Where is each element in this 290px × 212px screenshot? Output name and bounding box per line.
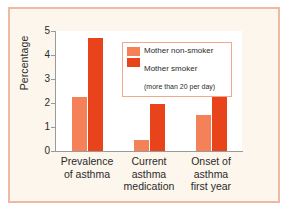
y-tick-label: 3 (32, 75, 50, 83)
bar (150, 104, 165, 151)
y-tick-mark (51, 31, 55, 32)
x-axis-label: Prevalenceof asthma (56, 155, 118, 180)
legend-label-non-smoker: Mother non-smoker (144, 46, 213, 56)
x-axis-label-line: Onset of (180, 155, 242, 168)
bar (134, 140, 149, 151)
y-tick: 1 (28, 127, 50, 128)
x-axis-label-line: asthma (118, 168, 180, 181)
y-tick-label: 2 (32, 99, 50, 107)
chart-legend: Mother non-smoker Mother smoker (more th… (122, 42, 232, 97)
y-tick: 0 (28, 151, 50, 152)
y-tick: 2 (28, 103, 50, 104)
bar (72, 97, 87, 151)
y-tick-mark (51, 103, 55, 104)
y-tick-mark (51, 127, 55, 128)
legend-label-group-smoker: Mother smoker (more than 20 per day) (144, 57, 215, 93)
chart-figure: 012345 Percentage Prevalenceof asthmaCur… (8, 7, 280, 203)
bar (196, 115, 211, 151)
x-axis-label-line: Prevalence (56, 155, 118, 168)
y-axis-title: Percentage (18, 27, 30, 99)
y-tick-mark (51, 151, 55, 152)
x-axis-line (55, 151, 243, 152)
y-tick: 4 (28, 55, 50, 56)
legend-item-smoker: Mother smoker (more than 20 per day) (127, 57, 227, 93)
legend-swatch-icon-non-smoker (127, 47, 140, 56)
x-axis-label: Onset ofasthmafirst year (180, 155, 242, 193)
legend-label-smoker: Mother smoker (144, 64, 197, 73)
legend-sublabel-smoker: (more than 20 per day) (144, 83, 215, 90)
legend-item-non-smoker: Mother non-smoker (127, 46, 227, 56)
y-tick-label: 0 (32, 147, 50, 155)
x-axis-label-line: first year (180, 180, 242, 193)
bar (88, 38, 103, 151)
y-tick: 3 (28, 79, 50, 80)
y-tick-label: 1 (32, 123, 50, 131)
legend-swatch-icon-smoker (127, 58, 140, 67)
y-tick-mark (51, 55, 55, 56)
y-tick: 5 (28, 31, 50, 32)
y-tick-label: 5 (32, 27, 50, 35)
y-axis-line (55, 31, 56, 152)
x-axis-label-line: of asthma (56, 168, 118, 181)
y-tick-label: 4 (32, 51, 50, 59)
x-axis-label-line: Current (118, 155, 180, 168)
y-tick-mark (51, 79, 55, 80)
x-axis-label: Currentasthmamedication (118, 155, 180, 193)
x-axis-label-line: asthma (180, 168, 242, 181)
x-axis-label-line: medication (118, 180, 180, 193)
